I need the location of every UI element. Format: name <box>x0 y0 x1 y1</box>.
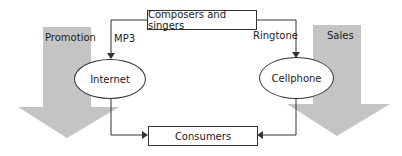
consumers-node: Consumers <box>148 126 258 146</box>
ringtone-label: Ringtone <box>253 31 298 41</box>
mp3-label: MP3 <box>114 34 135 44</box>
composers-node: Composers and singers <box>147 10 257 30</box>
cellphone-node: Cellphone <box>259 57 334 99</box>
internet-to-consumers-line <box>111 99 145 135</box>
sales-label: Sales <box>327 31 354 41</box>
internet-node: Internet <box>74 59 146 99</box>
promotion-label: Promotion <box>45 33 96 43</box>
